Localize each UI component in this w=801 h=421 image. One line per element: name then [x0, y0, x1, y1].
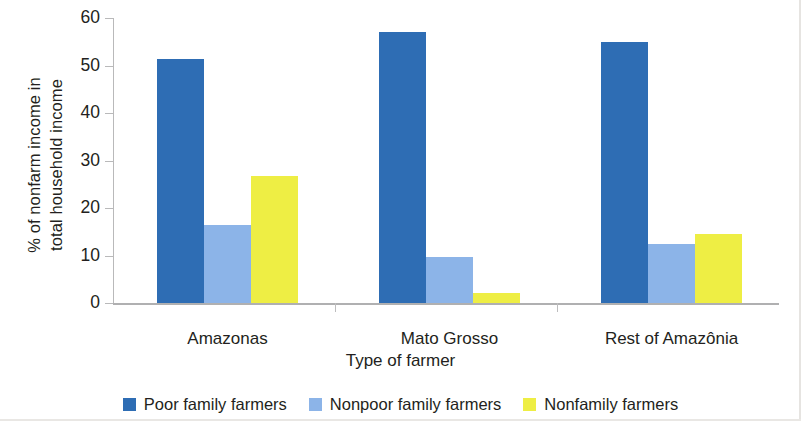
y-tick-mark: [105, 113, 113, 114]
plot-area: 0102030405060 AmazonasMato GrossoRest of…: [113, 18, 779, 303]
y-tick-mark: [105, 303, 113, 304]
y-axis-line: [113, 18, 114, 303]
y-tick-mark: [105, 208, 113, 209]
x-axis-title: Type of farmer: [0, 352, 801, 369]
bar: [695, 234, 742, 303]
y-tick-mark: [105, 161, 113, 162]
x-axis-line: [113, 303, 779, 305]
y-tick-mark: [105, 18, 113, 19]
bar: [251, 176, 298, 303]
bar: [601, 42, 648, 303]
legend-label: Poor family farmers: [144, 396, 287, 413]
y-tick-label: 60: [81, 9, 100, 27]
legend-color-swatch: [309, 398, 322, 411]
bar: [648, 244, 695, 303]
y-tick-label: 20: [81, 199, 100, 217]
y-tick-mark: [105, 256, 113, 257]
y-tick-label: 0: [90, 294, 100, 312]
legend-label: Nonfamily farmers: [544, 396, 678, 413]
y-axis-title-line-1: % of nonfarm income in: [23, 77, 45, 253]
x-axis-category-label: Amazonas: [187, 330, 267, 347]
y-tick-label: 40: [81, 104, 100, 122]
bar: [204, 225, 251, 303]
y-tick-label: 50: [81, 57, 100, 75]
y-tick-label: 10: [81, 247, 100, 265]
legend-item: Nonpoor family farmers: [309, 396, 501, 413]
plot-inner: 0102030405060: [113, 18, 779, 303]
x-tick-mark: [557, 303, 558, 312]
legend-label: Nonpoor family farmers: [330, 396, 501, 413]
legend-item: Nonfamily farmers: [523, 396, 678, 413]
y-tick-label: 30: [81, 152, 100, 170]
y-axis-title: % of nonfarm income in total household i…: [22, 15, 68, 315]
y-tick-mark: [105, 66, 113, 67]
x-axis-category-label: Rest of Amazônia: [605, 330, 738, 347]
y-axis-title-line-2: total household income: [45, 79, 67, 251]
chart-legend: Poor family farmersNonpoor family farmer…: [0, 396, 801, 413]
legend-color-swatch: [123, 398, 136, 411]
bar-chart-figure: % of nonfarm income in total household i…: [0, 0, 801, 421]
bar: [379, 32, 426, 303]
legend-color-swatch: [523, 398, 536, 411]
bar: [473, 293, 520, 303]
legend-item: Poor family farmers: [123, 396, 287, 413]
x-tick-mark: [335, 303, 336, 312]
bar: [426, 257, 473, 303]
x-axis-category-label: Mato Grosso: [401, 330, 498, 347]
bar: [157, 59, 204, 303]
